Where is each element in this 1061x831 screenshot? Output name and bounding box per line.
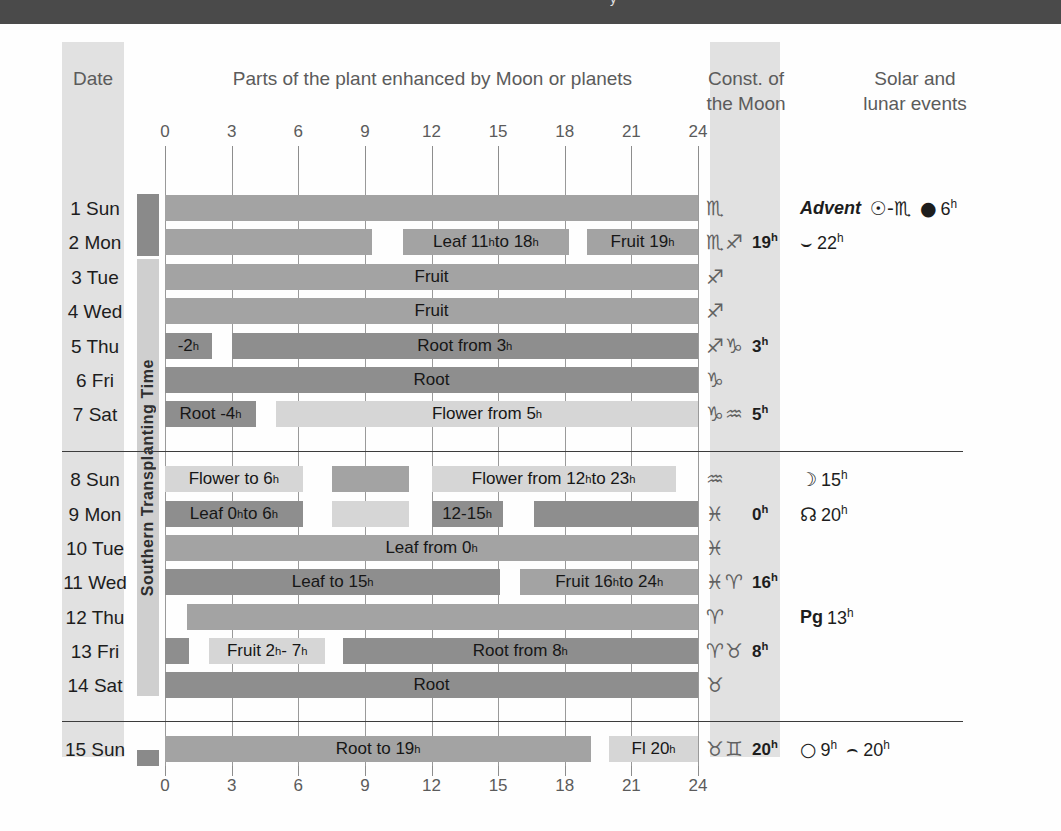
plant-part-bar: Fl 20h [609,736,698,762]
plant-part-bar: Root to 19h [165,736,591,762]
plant-part-bar: Leaf from 0h [165,535,698,561]
event-item: ☽15h [800,468,848,491]
axis-tick-mark [631,146,632,172]
constellation-cell: ♑♒5h [706,401,784,427]
constellation-cell: ♑ [706,367,784,393]
plant-part-bar: Root from 8h [343,638,698,664]
zodiac-symbol: ♑ [706,368,752,392]
solar-lunar-event-cell [800,264,1050,290]
plant-part-bar: Fruit 2h - 7h [209,638,324,664]
plant-part-bar [165,195,698,221]
event-glyph: ⌢ [846,738,859,761]
event-glyph: ● [920,197,937,219]
clipped-banner-text: y [610,0,617,6]
plant-part-bar: Root from 3h [232,333,698,359]
axis-tick-mark [498,146,499,172]
date-label: 1 Sun [55,198,135,220]
event-glyph: ☊ [800,503,817,525]
axis-tick-label: 0 [150,122,180,142]
axis-tick-label: 9 [350,122,380,142]
header-solar-lunar-events: Solar and lunar events [800,66,1030,116]
zodiac-symbol: ♐ [706,265,752,289]
solar-lunar-event-cell [800,638,1050,664]
axis-tick-label: 6 [283,776,313,796]
plant-part-bar [165,638,189,664]
header-parts-of-plant: Parts of the plant enhanced by Moon or p… [160,66,705,91]
solar-lunar-event-cell [800,298,1050,324]
axis-tick-label: 3 [217,776,247,796]
solar-lunar-event-cell: ○9h⌢20h [800,736,1050,762]
axis-tick-label: 21 [616,776,646,796]
zodiac-symbol: ♏ [706,196,752,220]
event-item: Advent [800,198,861,219]
event-item: ☊20h [800,503,848,526]
plant-part-bar: Leaf 11h to 18h [403,229,570,255]
plant-part-bar: Flower from 5h [276,401,698,427]
event-hour: 13h [827,606,854,629]
date-label: 12 Thu [55,607,135,629]
constellation-cell: ♉ [706,672,784,698]
axis-tick-label: 24 [683,122,713,142]
axis-tick-label: 0 [150,776,180,796]
solar-lunar-event-cell [800,401,1050,427]
southern-transplanting-time-label: Southern Transplanting Time [137,259,159,696]
event-hour: 22h [817,231,844,254]
plant-part-bar [165,229,372,255]
plant-part-bar [332,466,410,492]
zodiac-symbol: ♐ [706,299,752,323]
event-hour: 20h [863,738,890,761]
date-label: 8 Sun [55,469,135,491]
date-label: 13 Fri [55,641,135,663]
plant-part-bar: Fruit 16h to 24h [520,569,698,595]
solar-lunar-event-cell [800,672,1050,698]
axis-tick-label: 24 [683,776,713,796]
constellation-hour: 3h [752,335,768,357]
axis-tick-mark [698,146,699,172]
zodiac-symbol: ♑♒ [706,402,752,426]
constellation-cell: ♓0h [706,501,784,527]
date-label: 15 Sun [55,739,135,761]
axis-tick-label: 12 [417,776,447,796]
zodiac-symbol: ♓ [706,502,752,526]
header-date: Date [55,66,131,91]
constellation-cell: ♐ [706,264,784,290]
constellation-cell: ♉♊20h [706,736,784,762]
axis-tick-mark [232,146,233,172]
date-label: 5 Thu [55,336,135,358]
constellation-cell: ♈♉8h [706,638,784,664]
constellation-cell: ♏ [706,195,784,221]
plant-part-bar: Fruit [165,298,698,324]
axis-tick-label: 21 [616,122,646,142]
axis-tick-label: 15 [483,122,513,142]
solar-lunar-event-cell: ☽15h [800,466,1050,492]
zodiac-symbol: ♒ [706,467,752,491]
constellation-hour: 16h [752,571,778,593]
event-item: ⌣22h [800,231,844,254]
date-label: 3 Tue [55,267,135,289]
constellation-hour: 20h [752,738,778,760]
date-label: 9 Mon [55,504,135,526]
side-band-segment-bottom [137,750,159,766]
axis-tick-label: 9 [350,776,380,796]
axis-tick-mark [565,146,566,172]
axis-tick-mark [432,146,433,172]
constellation-cell: ♒ [706,466,784,492]
date-label: 14 Sat [55,675,135,697]
calendar-sheet: Date Parts of the plant enhanced by Moon… [0,24,1061,831]
plant-part-bar: Root [165,672,698,698]
constellation-cell: ♐♑3h [706,333,784,359]
axis-tick-mark [365,146,366,172]
constellation-hour: 19h [752,231,778,253]
event-glyph: Pg [800,607,823,628]
zodiac-symbol: ♓ [706,536,752,560]
axis-tick-label: 18 [550,122,580,142]
plant-part-bar: Leaf 0h to 6h [165,501,303,527]
header-constellation: Const. of the Moon [706,66,786,116]
constellation-cell: ♏♐19h [706,229,784,255]
plant-part-bar [187,604,698,630]
plant-part-bar [332,501,410,527]
zodiac-symbol: ♈ [706,605,752,629]
constellation-cell: ♓ [706,535,784,561]
date-label: 4 Wed [55,301,135,323]
plant-part-bar: Fruit [165,264,698,290]
